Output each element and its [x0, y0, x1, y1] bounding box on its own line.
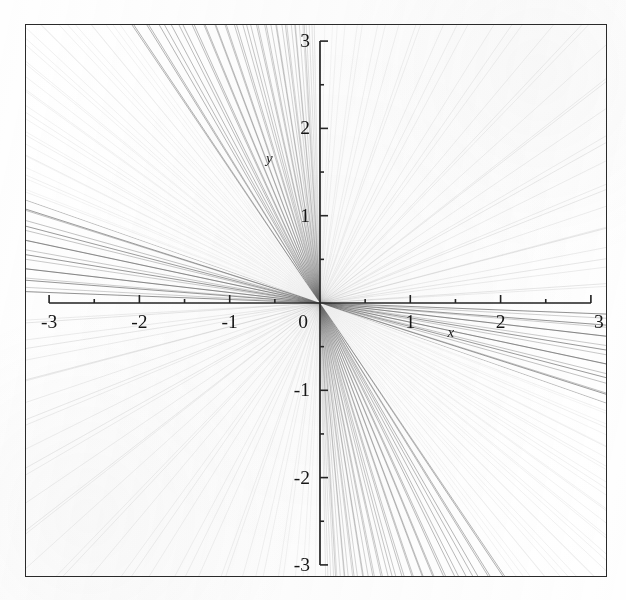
- y-tick-label-2: 2: [300, 119, 310, 139]
- y-tick-label-3: 3: [300, 31, 310, 51]
- figure-page: -3 -2 -1 0 1 2 3 -3 -2 -1 1 2 3 x y: [0, 0, 626, 600]
- y-axis-variable-label: y: [266, 151, 273, 166]
- x-tick-label--3: -3: [41, 312, 57, 332]
- x-tick-label-0: 0: [298, 312, 308, 332]
- plot-frame-border: [25, 24, 607, 577]
- y-tick-label-1: 1: [300, 206, 310, 226]
- x-tick-label-3: 3: [594, 312, 604, 332]
- y-tick-label--2: -2: [294, 468, 310, 488]
- y-tick-label--3: -3: [294, 555, 310, 575]
- x-tick-label--2: -2: [131, 312, 147, 332]
- x-axis-variable-label: x: [448, 324, 455, 339]
- x-tick-label--1: -1: [222, 312, 238, 332]
- x-tick-label-1: 1: [405, 312, 415, 332]
- x-tick-label-2: 2: [496, 312, 506, 332]
- y-tick-label--1: -1: [294, 381, 310, 401]
